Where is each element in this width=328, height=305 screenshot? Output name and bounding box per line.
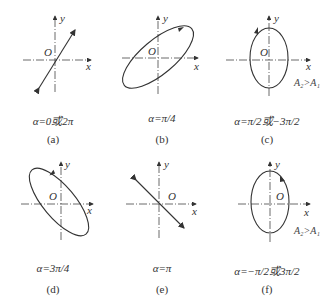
alpha-caption: α=3π/4: [3, 262, 103, 274]
alpha-caption: α=π: [112, 262, 212, 274]
svg-text:O: O: [148, 45, 156, 57]
svg-text:O: O: [260, 46, 268, 58]
svg-text:x: x: [193, 60, 199, 72]
line-plot-positive-slope: y x O: [3, 0, 103, 110]
panel-label: (b): [112, 133, 212, 145]
svg-text:y: y: [274, 158, 280, 170]
svg-text:A₂>A₁: A₂>A₁: [293, 77, 320, 88]
panel-b: y x O α=π/4 (b): [112, 0, 212, 150]
ellipse-plot-vertical: y x O A₂>A₁: [218, 150, 328, 260]
svg-text:A₂>A₁: A₂>A₁: [293, 225, 320, 236]
svg-text:x: x: [305, 60, 311, 72]
svg-text:y: y: [162, 12, 168, 24]
svg-text:O: O: [44, 46, 52, 58]
direction-arrow-icon: [178, 27, 184, 32]
alpha-caption: α=π/2或−3π/2: [212, 112, 322, 128]
alpha-caption: α=−π/2或3π/2: [212, 262, 322, 278]
svg-text:x: x: [303, 206, 309, 218]
svg-text:O: O: [276, 190, 284, 202]
svg-text:O: O: [49, 190, 57, 202]
line-plot-negative-slope: y x O: [112, 150, 212, 260]
ellipse-plot-vertical: y x O A₂>A₁: [218, 0, 328, 110]
svg-text:y: y: [64, 158, 70, 170]
panel-label: (d): [3, 283, 103, 295]
svg-text:y: y: [163, 158, 169, 170]
panel-label: (c): [212, 133, 322, 145]
ellipse-plot-positive-tilt: y x O: [112, 0, 212, 110]
panel-c: y x O A₂>A₁ α=π/2或−3π/2 (c): [218, 0, 328, 150]
direction-arrow-icon: [280, 176, 285, 182]
panel-label: (e): [112, 283, 212, 295]
alpha-caption: α=π/4: [112, 112, 212, 124]
svg-text:x: x: [85, 60, 91, 72]
panel-f: y x O A₂>A₁ α=−π/2或3π/2 (f): [218, 150, 328, 300]
svg-text:y: y: [59, 12, 65, 24]
panel-label: (a): [3, 133, 103, 145]
panel-a: y x O α=0或2π (a): [3, 0, 103, 150]
ellipse-plot-negative-tilt: y x O: [3, 150, 103, 260]
svg-text:y: y: [273, 12, 279, 24]
direction-arrow-icon: [254, 27, 258, 34]
svg-text:O: O: [168, 190, 176, 202]
panel-e: y x O α=π (e): [112, 150, 212, 300]
svg-text:x: x: [86, 204, 92, 216]
svg-text:x: x: [191, 205, 197, 217]
alpha-caption: α=0或2π: [3, 112, 103, 128]
panel-label: (f): [212, 283, 322, 295]
panel-d: y x O α=3π/4 (d): [3, 150, 103, 300]
